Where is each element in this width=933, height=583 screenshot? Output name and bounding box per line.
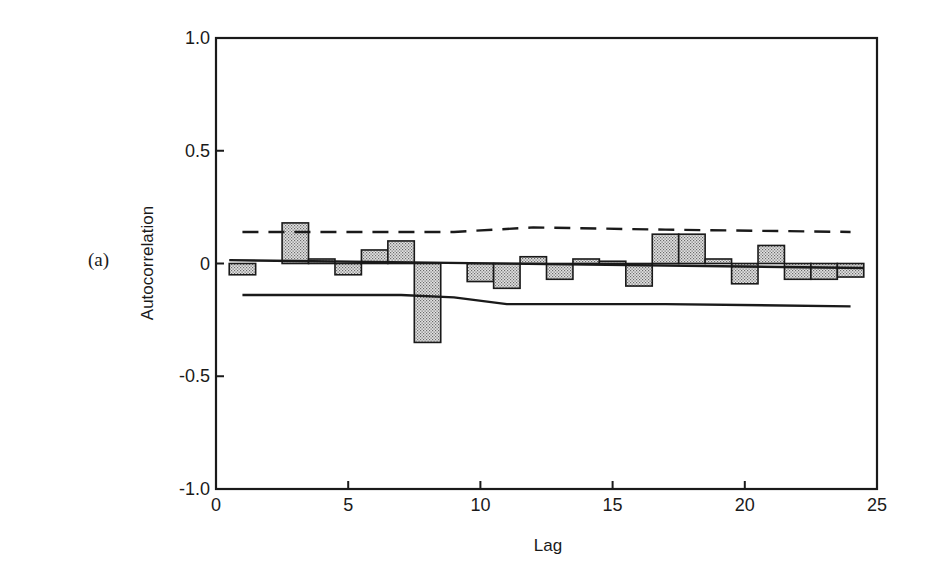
- bar-lag-7: [388, 241, 414, 264]
- x-tick-label: 5: [343, 495, 353, 515]
- y-tick-label: 0.5: [185, 141, 210, 161]
- x-tick-label: 0: [211, 495, 221, 515]
- y-tick-label: 1.0: [185, 28, 210, 48]
- bar-lag-19: [705, 259, 731, 264]
- bar-lag-16: [626, 264, 652, 287]
- y-tick-label: -0.5: [179, 366, 210, 386]
- bar-lag-11: [494, 264, 520, 289]
- y-tick-label: 0: [200, 254, 210, 274]
- upper-bound-line: [242, 227, 850, 232]
- bar-lag-3: [282, 223, 308, 264]
- bar-lag-23: [811, 264, 837, 280]
- bar-lag-13: [547, 264, 573, 280]
- axis-ticks: 1.00.50-0.5-1.00510152025: [179, 28, 887, 515]
- bar-lag-12: [520, 257, 546, 264]
- bar-lag-5: [335, 264, 361, 275]
- bar-lag-15: [599, 261, 625, 263]
- bar-lag-10: [467, 264, 493, 282]
- bar-lag-17: [652, 234, 678, 263]
- bar-lag-21: [758, 245, 784, 263]
- bar-series: [229, 223, 864, 343]
- bar-lag-8: [414, 264, 440, 343]
- y-tick-label: -1.0: [179, 479, 210, 499]
- autocorrelation-chart: 1.00.50-0.5-1.00510152025: [0, 0, 933, 583]
- bar-lag-1: [229, 264, 255, 275]
- bar-lag-18: [679, 234, 705, 263]
- bar-lag-24: [837, 264, 863, 278]
- lower-bound-line: [242, 295, 850, 306]
- x-tick-label: 15: [603, 495, 623, 515]
- x-tick-label: 25: [867, 495, 887, 515]
- x-tick-label: 10: [470, 495, 490, 515]
- bar-lag-14: [573, 259, 599, 264]
- x-tick-label: 20: [735, 495, 755, 515]
- bar-lag-22: [784, 264, 810, 280]
